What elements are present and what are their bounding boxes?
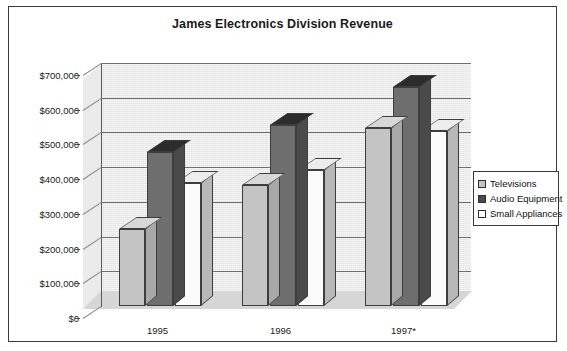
legend-item-label: Televisions <box>490 178 536 189</box>
bar-front-face <box>365 128 391 306</box>
y-tick-label: $200,000 <box>39 243 79 254</box>
bar-front-face <box>242 185 268 306</box>
legend-item-audio-equipment[interactable]: Audio Equipment <box>478 191 554 206</box>
y-tick-label: $400,000 <box>39 174 79 185</box>
bar-televisions-1995 <box>119 229 145 306</box>
y-tick-label: $700,000 <box>39 70 79 81</box>
chart-legend: Televisions Audio Equipment Small Applia… <box>473 171 559 226</box>
bar-side-face <box>296 115 308 306</box>
bar-front-face <box>119 229 145 306</box>
y-tick-label: $300,000 <box>39 208 79 219</box>
x-tick-label: 1995 <box>147 325 168 336</box>
bar-televisions-1996 <box>242 185 268 306</box>
bar-side-face <box>447 121 459 306</box>
plot-area <box>83 55 478 323</box>
bar-side-face <box>201 173 213 306</box>
bar-side-face <box>324 160 336 306</box>
gridline <box>101 63 471 64</box>
y-tick-mark <box>75 144 80 145</box>
legend-item-televisions[interactable]: Televisions <box>478 176 554 191</box>
x-tick-label: 1997* <box>391 325 416 336</box>
y-tick-mark <box>75 283 80 284</box>
bar-side-face <box>391 118 403 306</box>
y-tick-mark <box>75 75 80 76</box>
bar-side-face <box>268 175 280 306</box>
legend-swatch-icon <box>478 195 486 203</box>
y-tick-mark <box>75 214 80 215</box>
x-tick-label: 1996 <box>270 325 291 336</box>
y-tick-mark <box>75 249 80 250</box>
bar-side-face <box>173 142 185 306</box>
legend-item-small-appliances[interactable]: Small Appliances <box>478 206 554 221</box>
legend-item-label: Small Appliances <box>490 208 562 219</box>
legend-swatch-icon <box>478 180 486 188</box>
y-axis: $0$100,000$200,000$300,000$400,000$500,0… <box>9 55 79 323</box>
bar-side-face <box>419 77 431 306</box>
y-tick-mark <box>75 179 80 180</box>
chart-frame: James Electronics Division Revenue $0$10… <box>8 6 557 342</box>
y-tick-mark <box>75 318 80 319</box>
chart-title: James Electronics Division Revenue <box>9 17 556 31</box>
x-axis: 199519961997* <box>83 325 478 341</box>
legend-swatch-icon <box>478 210 486 218</box>
legend-item-label: Audio Equipment <box>490 193 562 204</box>
y-tick-label: $600,000 <box>39 104 79 115</box>
bar-side-face <box>145 219 157 306</box>
y-tick-label: $500,000 <box>39 139 79 150</box>
y-tick-mark <box>75 110 80 111</box>
bar-televisions-1997 <box>365 128 391 306</box>
y-tick-label: $100,000 <box>39 278 79 289</box>
